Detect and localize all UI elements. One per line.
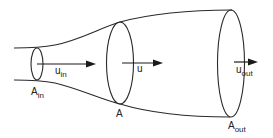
inlet-area-label: Ain — [31, 86, 44, 100]
inlet-velocity-arrow — [37, 61, 96, 68]
middle-velocity-label: u — [137, 63, 143, 74]
tube-top-wall — [14, 10, 232, 48]
middle-area-label: A — [116, 108, 123, 119]
stream-tube-diagram: uin Ain u A uout Aout — [0, 0, 273, 138]
outlet-area-label: Aout — [228, 120, 247, 134]
inlet-velocity-label: uin — [55, 65, 67, 79]
